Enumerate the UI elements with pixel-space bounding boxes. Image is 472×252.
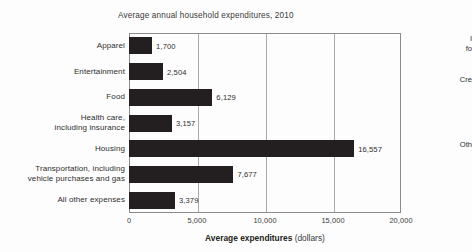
bar-row[interactable]: 16,557 <box>129 140 401 157</box>
chart-page: Average annual household expenditures, 2… <box>0 0 472 252</box>
category-label-line: Housing <box>5 144 125 154</box>
bar-row[interactable]: 3,157 <box>129 115 401 132</box>
margin-note-2: Cre <box>442 75 472 85</box>
bar[interactable] <box>129 166 233 183</box>
category-label: Housing <box>5 144 129 154</box>
category-label-line: vehicle purchases and gas <box>5 174 125 184</box>
margin-note-3: Oth <box>442 140 472 150</box>
margin-note-1: Ifo <box>442 34 472 54</box>
x-axis-title: Average expenditures (dollars) <box>129 233 401 243</box>
bar-value-label: 16,557 <box>354 144 382 153</box>
bar-row[interactable]: 3,379 <box>129 192 401 209</box>
category-label: Food <box>5 92 129 102</box>
bar-row[interactable]: 7,677 <box>129 166 401 183</box>
bar-row[interactable]: 1,700 <box>129 37 401 54</box>
x-axis-tick-label: 20,000 <box>389 216 412 225</box>
x-axis-tick-label: 10,000 <box>253 216 276 225</box>
x-axis-title-main: Average expenditures <box>205 233 292 243</box>
category-label-line: Apparel <box>5 41 125 51</box>
bar-value-label: 6,129 <box>212 93 236 102</box>
bar-value-label: 2,504 <box>163 67 187 76</box>
chart-title: Average annual household expenditures, 2… <box>118 11 294 20</box>
x-axis-title-unit: (dollars) <box>295 233 325 243</box>
bar-row[interactable]: 6,129 <box>129 89 401 106</box>
bar[interactable] <box>129 140 354 157</box>
category-label-layer: ApparelEntertainmentFoodHealth care,incl… <box>0 33 129 213</box>
margin-note-line: Cre <box>442 75 472 85</box>
bar-value-label: 3,157 <box>172 119 196 128</box>
margin-note-line: fo <box>442 44 472 54</box>
bar-row[interactable]: 2,504 <box>129 63 401 80</box>
bar[interactable] <box>129 37 152 54</box>
category-label: All other expenses <box>5 195 129 205</box>
category-label: Health care,including insurance <box>5 113 129 133</box>
bar-value-label: 7,677 <box>233 170 257 179</box>
category-label: Entertainment <box>5 67 129 77</box>
bar[interactable] <box>129 63 163 80</box>
category-label-line: including insurance <box>5 123 125 133</box>
bar[interactable] <box>129 192 175 209</box>
category-label-line: Food <box>5 92 125 102</box>
bars-layer: 1,7002,5046,1293,15716,5577,6773,379 <box>129 33 401 213</box>
bar-value-label: 1,700 <box>152 41 176 50</box>
bar[interactable] <box>129 115 172 132</box>
category-label-line: Health care, <box>5 113 125 123</box>
category-label: Apparel <box>5 41 129 51</box>
x-axis-tick-label: 15,000 <box>321 216 344 225</box>
x-axis-tick-label: 5,000 <box>188 216 207 225</box>
margin-note-line: Oth <box>442 140 472 150</box>
category-label-line: All other expenses <box>5 195 125 205</box>
bar-value-label: 3,379 <box>175 196 199 205</box>
category-label-line: Transportation, including <box>5 164 125 174</box>
category-label-line: Entertainment <box>5 67 125 77</box>
x-axis-tick-label: 0 <box>127 216 131 225</box>
margin-note-line: I <box>442 34 472 44</box>
category-label: Transportation, includingvehicle purchas… <box>5 164 129 184</box>
bar[interactable] <box>129 89 212 106</box>
